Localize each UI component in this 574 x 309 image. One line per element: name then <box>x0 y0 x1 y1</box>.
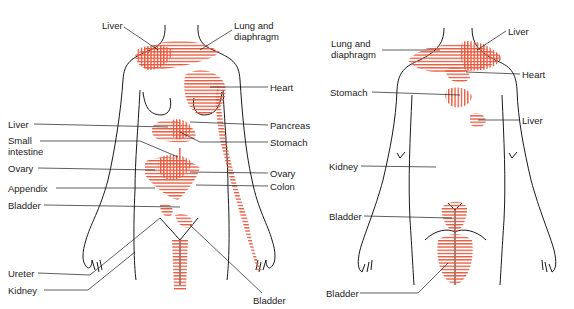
back-pain-regions <box>408 41 502 285</box>
label-front-small-intestine: Small intestine <box>8 135 43 157</box>
label-back-kidney: Kidney <box>329 161 358 172</box>
label-front-lung-diaphragm: Lung and diaphragm <box>234 20 279 42</box>
label-front-pancreas: Pancreas <box>270 120 310 131</box>
label-front-ovary-right: Ovary <box>270 168 295 179</box>
label-front-appendix: Appendix <box>8 183 48 194</box>
label-front-liver-top: Liver <box>102 20 123 31</box>
label-front-bladder-left: Bladder <box>8 200 41 211</box>
label-front-ureter: Ureter <box>8 268 34 279</box>
label-back-bladder-bottom: Bladder <box>326 288 359 299</box>
label-front-colon: Colon <box>270 181 295 192</box>
label-back-liver-mid: Liver <box>522 115 543 126</box>
label-front-kidney: Kidney <box>8 285 37 296</box>
label-back-lung-diaphragm: Lung and diaphragm <box>331 38 376 60</box>
label-back-liver-top: Liver <box>508 26 529 37</box>
referred-pain-diagram <box>0 0 574 309</box>
label-front-stomach: Stomach <box>270 137 308 148</box>
front-pain-regions <box>135 41 262 290</box>
label-front-liver-mid: Liver <box>8 119 29 130</box>
label-back-heart: Heart <box>522 69 545 80</box>
label-back-stomach: Stomach <box>330 87 368 98</box>
label-front-ovary-left: Ovary <box>8 163 33 174</box>
label-front-heart: Heart <box>270 82 293 93</box>
label-back-bladder-mid: Bladder <box>329 211 362 222</box>
label-front-bladder-bottom: Bladder <box>253 295 286 306</box>
